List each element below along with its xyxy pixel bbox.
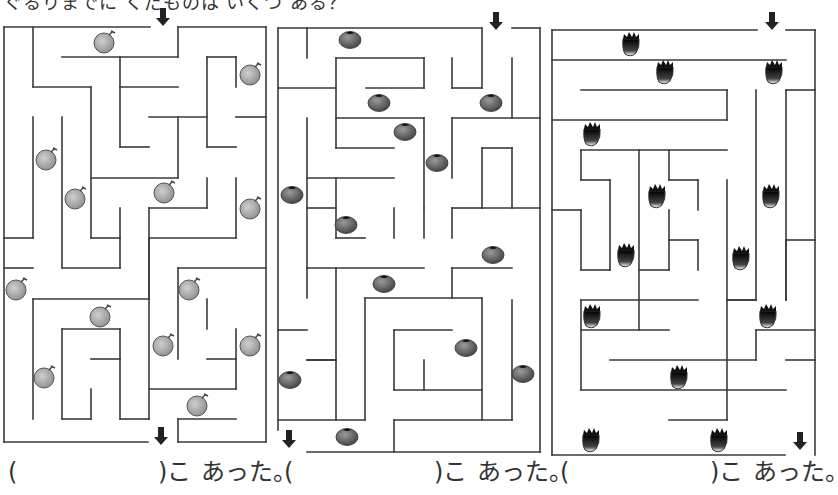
answer-blank[interactable]: ( <box>560 458 710 486</box>
tomato-icon <box>394 124 416 141</box>
melon-icon <box>187 394 208 416</box>
answer-suffix: あった。 <box>753 458 838 486</box>
pineapple-icon <box>766 60 782 84</box>
melon-icon <box>6 278 27 300</box>
pineapple-icon <box>657 60 673 84</box>
tomato-icon <box>279 372 301 389</box>
goal-arrow-icon <box>282 430 296 448</box>
maze-tomato <box>278 12 540 452</box>
maze-pineapple <box>552 12 815 455</box>
tomato-icon <box>482 247 504 264</box>
melon-icon <box>94 31 115 53</box>
pineapple-icon <box>671 365 687 389</box>
tomato-icon <box>281 187 303 204</box>
start-arrow-icon <box>765 12 779 30</box>
melon-icon <box>240 334 261 356</box>
pineapple-icon <box>763 184 779 208</box>
pineapple-icon <box>733 246 749 270</box>
goal-arrow-icon <box>154 427 168 445</box>
answer-line-melon: ()こあった。 <box>8 452 297 487</box>
melon-icon <box>90 305 111 327</box>
pineapple-icon <box>711 428 727 452</box>
melon-icon <box>154 181 175 203</box>
pineapple-icon <box>649 184 665 208</box>
answer-suffix: あった。 <box>477 458 573 486</box>
start-arrow-icon <box>156 8 170 26</box>
answer-blank[interactable]: ( <box>284 458 434 486</box>
melon-icon <box>65 187 86 209</box>
tomato-icon <box>373 276 395 293</box>
answer-line-tomato: ()こあった。 <box>284 452 573 487</box>
goal-arrow-icon <box>793 432 807 450</box>
answer-counter: )こ <box>434 458 467 486</box>
pineapple-icon <box>584 304 600 328</box>
melon-icon <box>179 278 200 300</box>
answer-counter: )こ <box>158 458 191 486</box>
answer-line-pineapple: ()こあった。 <box>560 452 838 487</box>
melon-icon <box>240 197 261 219</box>
melon-icon <box>34 366 55 388</box>
answer-suffix: あった。 <box>201 458 297 486</box>
answer-blank[interactable]: ( <box>8 458 158 486</box>
tomato-icon <box>455 340 477 357</box>
maze-melon <box>4 8 266 445</box>
pineapple-icon <box>584 122 600 146</box>
tomato-icon <box>480 95 502 112</box>
melon-icon <box>153 334 174 356</box>
tomato-icon <box>426 155 448 172</box>
pineapple-icon <box>583 428 599 452</box>
pineapple-icon <box>760 304 776 328</box>
pineapple-icon <box>618 243 634 267</box>
tomato-icon <box>336 429 358 446</box>
melon-icon <box>240 63 261 85</box>
start-arrow-icon <box>489 12 503 30</box>
tomato-icon <box>339 32 361 49</box>
tomato-icon <box>368 95 390 112</box>
answer-counter: )こ <box>710 458 743 486</box>
melon-icon <box>36 148 57 170</box>
pineapple-icon <box>623 32 639 56</box>
tomato-icon <box>512 366 534 383</box>
tomato-icon <box>335 217 357 234</box>
